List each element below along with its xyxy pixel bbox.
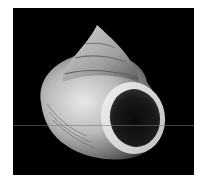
shell-illustration (13, 8, 194, 175)
spire (63, 25, 139, 82)
shell-photo (13, 8, 194, 175)
scan-line-artifact (13, 125, 194, 126)
